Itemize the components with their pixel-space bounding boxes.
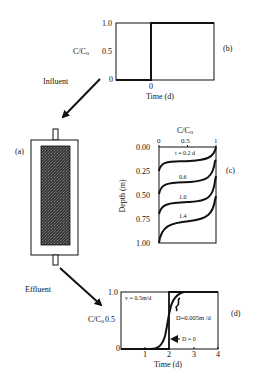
panel-d-ytick-1: 1.0 <box>108 289 118 297</box>
panel-c-ytick-025: 0.25 <box>136 168 150 176</box>
panel-c-ytick-050: 0.50 <box>136 192 150 200</box>
panel-d-xtick-4: 4 <box>216 351 220 359</box>
panel-b-xtick-0: 0 <box>149 83 153 91</box>
panel-b-plot <box>116 23 214 80</box>
panel-b-ytick-1: 1.0 <box>102 20 112 28</box>
effluent-arrow <box>60 268 101 305</box>
panel-c-ylabel: Depth (m) <box>119 179 127 212</box>
panel-c-xlabel: C/Co <box>177 127 193 135</box>
panel-b-tag: (b) <box>223 45 232 53</box>
panel-d-ylabel: C/Co0.5 <box>88 316 115 324</box>
panel-c-plot <box>159 145 216 243</box>
panel-d-tag: (d) <box>231 310 240 318</box>
panel-b-xlabel: Time (d) <box>146 93 174 101</box>
panel-d-ytick-0: 0 <box>116 345 120 353</box>
panel-c-tag: (c) <box>226 167 235 175</box>
panel-c-xtick-05: 0.5 <box>181 138 190 145</box>
column-diagram <box>31 129 78 265</box>
curve-label-14: 1.4 <box>179 213 187 219</box>
panel-c-xtick-1: 1 <box>214 138 218 145</box>
curve-label-t02: t = 0.2 d <box>175 150 195 156</box>
panel-d-xtick-3: 3 <box>192 351 196 359</box>
panel-b-ytick-0: 0 <box>109 76 113 84</box>
panel-d-xlabel: Time (d) <box>154 361 182 369</box>
diagram-graphics <box>0 0 257 385</box>
panel-c-ytick-0: 0.00 <box>136 144 150 152</box>
no-dispersion-annotation: D = 0 <box>182 336 196 342</box>
effluent-label: Effluent <box>25 286 51 294</box>
curve-label-10: 1.0 <box>179 194 187 200</box>
panel-c-xtick-0: 0 <box>157 138 161 145</box>
panel-c-ytick-100: 1.00 <box>136 240 150 248</box>
curve-label-06: 0.6 <box>179 174 187 180</box>
panel-b-ylabel: C/Co <box>73 48 89 56</box>
velocity-annotation: v = 0.5m/d <box>125 295 151 301</box>
influent-arrow <box>63 79 100 117</box>
panel-d-xtick-1: 1 <box>143 351 147 359</box>
panel-a-tag: (a) <box>15 148 24 156</box>
panel-b-ytick-05: 0.5 <box>102 48 112 56</box>
dispersion-annotation: D=0.005m /d <box>176 315 211 322</box>
panel-d-xtick-2: 2 <box>167 351 171 359</box>
panel-c-ytick-075: 0.75 <box>136 216 150 224</box>
influent-label: Influent <box>43 78 68 86</box>
